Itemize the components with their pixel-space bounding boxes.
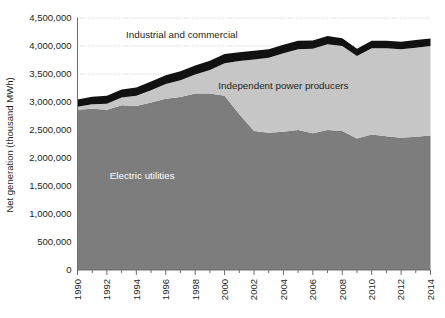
x-tick-label: 2006: [307, 279, 318, 300]
x-tick-label: 2004: [278, 279, 289, 300]
x-tick-label: 1994: [131, 279, 142, 300]
series-label-independent-power-producers: Independent power producers: [218, 80, 348, 91]
x-tick-label: 1998: [190, 279, 201, 300]
x-tick-label: 2014: [425, 279, 436, 300]
y-tick-label: 0: [66, 264, 71, 275]
y-tick-label: 3,500,000: [29, 68, 71, 79]
x-tick-label: 1996: [160, 279, 171, 300]
y-tick-label: 3,000,000: [29, 96, 71, 107]
y-axis-title: Net generation (thousand MWh): [4, 77, 15, 212]
y-tick-label: 2,500,000: [29, 124, 71, 135]
x-tick-label: 1992: [101, 279, 112, 300]
x-tick-label: 2010: [366, 279, 377, 300]
y-tick-label: 4,000,000: [29, 40, 71, 51]
chart-container: 0500,0001,000,0001,500,0002,000,0002,500…: [0, 0, 445, 318]
y-tick-label: 4,500,000: [29, 12, 71, 23]
x-tick-label: 1990: [72, 279, 83, 300]
stacked-area-chart: 0500,0001,000,0001,500,0002,000,0002,500…: [0, 0, 445, 318]
x-tick-label: 2002: [248, 279, 259, 300]
y-tick-label: 500,000: [37, 236, 71, 247]
series-label-industrial-and-commercial: Industrial and commercial: [126, 29, 238, 40]
series-label-electric-utilities: Electric utilities: [110, 170, 175, 181]
y-tick-label: 2,000,000: [29, 152, 71, 163]
x-tick-label: 2008: [337, 279, 348, 300]
y-tick-label: 1,000,000: [29, 208, 71, 219]
y-tick-label: 1,500,000: [29, 180, 71, 191]
x-tick-label: 2012: [395, 279, 406, 300]
x-tick-label: 2000: [219, 279, 230, 300]
